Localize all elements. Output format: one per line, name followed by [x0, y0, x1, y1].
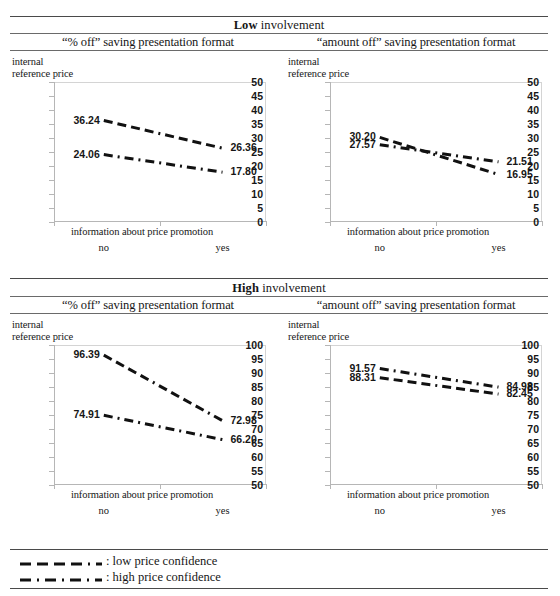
series-line-dashdot [380, 145, 499, 162]
y-axis-title-line2: reference price [12, 331, 73, 342]
column-header-high-percent: “% off” saving presentation format [12, 298, 284, 312]
chart-high-percent-off: internalreference price50556065707580859… [8, 319, 276, 519]
data-label-start: 27.57 [340, 139, 376, 150]
x-axis-title: information about price promotion [8, 226, 276, 238]
plot-area: 5055606570758085909510096.3972.9874.9166… [34, 345, 266, 485]
x-axis-title: information about price promotion [284, 226, 552, 238]
y-axis-title-line1: internal [288, 319, 319, 330]
series-line-dashdot [104, 415, 223, 439]
data-label-start: 91.57 [340, 363, 376, 374]
y-axis-title: internalreference price [288, 56, 349, 79]
legend-label-low-confidence: : low price confidence [106, 554, 217, 568]
column-header-low-amount: “amount off” saving presentation format [284, 35, 548, 49]
data-label-end: 17.80 [231, 166, 257, 177]
legend-row-low-confidence: : low price confidence [18, 553, 217, 568]
y-axis-title: internalreference price [12, 319, 73, 342]
data-label-end: 72.98 [231, 415, 257, 426]
rule-low-under-colheads [10, 50, 548, 51]
data-label-end: 16.95 [507, 169, 533, 180]
rule-low-under-title [10, 33, 548, 34]
x-axis-title: information about price promotion [284, 489, 552, 501]
x-category-yes: yes [474, 505, 524, 517]
y-axis-title: internalreference price [288, 319, 349, 342]
band-title-high-bold: High [232, 281, 259, 295]
y-axis-title-line2: reference price [12, 68, 73, 79]
y-axis-title-line2: reference price [288, 68, 349, 79]
x-category-no: no [355, 242, 405, 254]
band-title-high-rest: involvement [259, 281, 326, 295]
data-label-start: 24.06 [64, 149, 100, 160]
series-line-dashed [104, 121, 223, 149]
y-axis-title-line1: internal [12, 56, 43, 67]
data-label-end: 84.98 [507, 381, 533, 392]
series-line-dashdot [380, 369, 499, 388]
chart-low-amount-off: internalreference price05101520253035404… [284, 56, 552, 256]
chart-low-percent-off: internalreference price05101520253035404… [8, 56, 276, 256]
x-category-yes: yes [198, 505, 248, 517]
band-title-low-rest: involvement [258, 18, 325, 32]
data-label-start: 36.24 [64, 115, 100, 126]
chart-high-amount-off: internalreference price50556065707580859… [284, 319, 552, 519]
data-label-end: 26.36 [231, 142, 257, 153]
legend-swatch-dashdot-icon [18, 573, 104, 582]
band-title-low: Low involvement [10, 18, 548, 32]
series-lines [310, 82, 542, 222]
x-category-no: no [79, 242, 129, 254]
rule-bottom [10, 588, 548, 589]
rule-above-legend [10, 549, 548, 550]
column-header-high-amount: “amount off” saving presentation format [284, 298, 548, 312]
series-line-dashed [380, 137, 499, 174]
x-category-no: no [355, 505, 405, 517]
legend-row-high-confidence: : high price confidence [18, 569, 221, 584]
legend-label-high-confidence: : high price confidence [106, 570, 221, 584]
rule-mid [10, 278, 548, 279]
y-axis-title: internalreference price [12, 56, 73, 79]
y-axis-title-line2: reference price [288, 331, 349, 342]
plot-area: 0510152025303540455036.2426.3624.0617.80 [34, 82, 266, 222]
data-label-end: 21.51 [507, 156, 533, 167]
rule-high-under-title [10, 296, 548, 297]
data-label-start: 96.39 [64, 349, 100, 360]
band-title-low-bold: Low [234, 18, 258, 32]
x-category-yes: yes [198, 242, 248, 254]
rule-high-under-colheads [10, 313, 548, 314]
figure-root: Low involvement “% off” saving presentat… [0, 0, 560, 596]
series-line-dashed [104, 355, 223, 421]
plot-area: 0510152025303540455030.2016.9527.5721.51 [310, 82, 542, 222]
legend-swatch-dashed-icon [18, 557, 104, 566]
y-axis-title-line1: internal [288, 56, 319, 67]
plot-area: 5055606570758085909510088.3182.4591.5784… [310, 345, 542, 485]
y-axis-title-line1: internal [12, 319, 43, 330]
data-label-start: 74.91 [64, 409, 100, 420]
data-label-end: 66.20 [231, 434, 257, 445]
column-header-low-percent: “% off” saving presentation format [12, 35, 284, 49]
x-category-no: no [79, 505, 129, 517]
series-line-dashed [380, 378, 499, 394]
rule-top [10, 16, 548, 17]
band-title-high: High involvement [10, 281, 548, 295]
x-category-yes: yes [474, 242, 524, 254]
series-line-dashdot [104, 155, 223, 173]
x-axis-title: information about price promotion [8, 489, 276, 501]
